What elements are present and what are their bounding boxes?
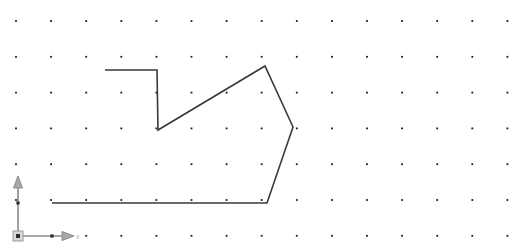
grid-dot: [15, 163, 17, 165]
grid-dot: [507, 128, 509, 130]
grid-dot: [366, 20, 368, 22]
grid-dot: [261, 56, 263, 58]
grid-dot: [331, 199, 333, 201]
grid-dot: [296, 56, 298, 58]
grid-dot: [261, 235, 263, 237]
grid-dot: [120, 92, 122, 94]
grid-dot: [471, 56, 473, 58]
grid-dot: [471, 128, 473, 130]
grid-dot: [85, 128, 87, 130]
grid-dot: [50, 56, 52, 58]
grid-dot: [120, 20, 122, 22]
grid-dot: [85, 163, 87, 165]
grid-dot: [436, 128, 438, 130]
grid-dot: [85, 235, 87, 237]
grid-dot: [85, 20, 87, 22]
grid-dot: [50, 20, 52, 22]
grid-dot: [331, 20, 333, 22]
grid-dot: [401, 56, 403, 58]
grid-dot: [50, 163, 52, 165]
grid-dot: [401, 128, 403, 130]
grid-dot: [156, 235, 158, 237]
grid-dot: [226, 56, 228, 58]
grid-dot: [15, 128, 17, 130]
grid-dot: [331, 128, 333, 130]
grid-dot: [15, 92, 17, 94]
grid-dot: [331, 163, 333, 165]
grid-dot: [261, 92, 263, 94]
grid-dot: [85, 56, 87, 58]
grid-dot: [471, 235, 473, 237]
grid-dot: [366, 56, 368, 58]
grid-dot: [191, 20, 193, 22]
grid-dot: [401, 235, 403, 237]
canvas-background: [0, 0, 518, 251]
grid-dot: [261, 128, 263, 130]
grid-dot: [120, 199, 122, 201]
grid-dot: [401, 20, 403, 22]
grid-dot: [156, 163, 158, 165]
grid-dot: [226, 92, 228, 94]
grid-dot: [156, 199, 158, 201]
grid-dot: [15, 20, 17, 22]
grid-dot: [261, 20, 263, 22]
grid-dot: [507, 235, 509, 237]
grid-dot: [261, 163, 263, 165]
grid-dot: [296, 92, 298, 94]
grid-dot: [401, 163, 403, 165]
grid-dot: [120, 56, 122, 58]
grid-dot: [366, 199, 368, 201]
grid-dot: [471, 92, 473, 94]
grid-dot: [226, 199, 228, 201]
grid-dot: [436, 20, 438, 22]
origin-marker-inner: [16, 234, 20, 238]
grid-dot: [191, 163, 193, 165]
grid-dot: [436, 92, 438, 94]
grid-dot: [331, 235, 333, 237]
grid-dot: [507, 56, 509, 58]
grid-dot: [50, 92, 52, 94]
grid-dot: [331, 92, 333, 94]
grid-dot: [401, 92, 403, 94]
grid-dot: [436, 163, 438, 165]
grid-dot: [296, 235, 298, 237]
grid-dot: [191, 92, 193, 94]
grid-dot: [296, 20, 298, 22]
grid-dot: [366, 92, 368, 94]
grid-dot: [507, 20, 509, 22]
grid-dot: [15, 199, 17, 201]
grid-dot: [156, 56, 158, 58]
grid-dot: [366, 235, 368, 237]
grid-dot: [120, 163, 122, 165]
grid-dot: [296, 128, 298, 130]
grid-dot: [471, 199, 473, 201]
x-axis-label: x: [76, 233, 80, 240]
sketch-canvas[interactable]: x: [0, 0, 518, 251]
y-axis-tick: [16, 201, 19, 204]
grid-dot: [296, 163, 298, 165]
grid-dot: [191, 235, 193, 237]
grid-dot: [296, 199, 298, 201]
grid-dot: [507, 199, 509, 201]
grid-dot: [120, 235, 122, 237]
x-axis-tick: [50, 234, 53, 237]
grid-dot: [156, 128, 158, 130]
grid-dot: [226, 20, 228, 22]
grid-dot: [261, 199, 263, 201]
grid-dot: [366, 128, 368, 130]
sketch-svg-surface[interactable]: x: [0, 0, 518, 251]
grid-dot: [85, 199, 87, 201]
grid-dot: [15, 56, 17, 58]
grid-dot: [50, 128, 52, 130]
grid-dot: [507, 92, 509, 94]
grid-dot: [156, 20, 158, 22]
grid-dot: [191, 56, 193, 58]
grid-dot: [471, 163, 473, 165]
grid-dot: [331, 56, 333, 58]
grid-dot: [436, 235, 438, 237]
grid-dot: [226, 163, 228, 165]
grid-dot: [507, 163, 509, 165]
grid-dot: [226, 128, 228, 130]
grid-dot: [226, 235, 228, 237]
grid-dot: [85, 92, 87, 94]
